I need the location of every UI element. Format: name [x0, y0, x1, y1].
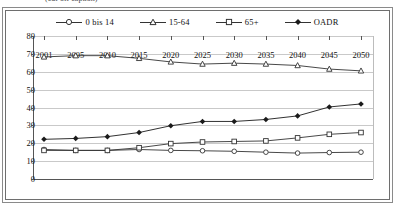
- data-point: [41, 137, 47, 143]
- series-0-bis-14: [42, 147, 364, 155]
- data-point: [359, 150, 364, 155]
- data-point: [295, 136, 300, 141]
- legend-marker-triangle-icon: [140, 17, 166, 27]
- data-point: [358, 101, 364, 107]
- data-point: [42, 148, 47, 153]
- legend-label-0-bis-14: 0 bis 14: [84, 17, 114, 27]
- data-point: [136, 130, 142, 136]
- legend-marker-square-icon: [216, 17, 242, 27]
- caption-text: (cut-off caption): [45, 0, 98, 3]
- data-point: [295, 151, 300, 156]
- data-point: [295, 113, 301, 119]
- y-tick-mark: [31, 179, 34, 180]
- legend-marker-circle-icon: [56, 17, 82, 27]
- legend-label-15-64: 15-64: [168, 17, 190, 27]
- data-point: [327, 132, 332, 137]
- plot-area: 01020304050607080 2001200520102015202020…: [33, 36, 373, 180]
- data-point: [327, 150, 332, 155]
- data-point: [105, 148, 110, 153]
- data-point: [169, 141, 174, 146]
- legend-item-65-plus: 65+: [216, 17, 259, 27]
- legend-item-15-64: 15-64: [140, 17, 190, 27]
- data-point: [263, 117, 269, 123]
- legend-label-65-plus: 65+: [244, 17, 259, 27]
- data-point: [264, 139, 269, 144]
- data-point: [327, 104, 333, 110]
- data-point: [200, 119, 206, 125]
- data-point: [359, 130, 364, 135]
- data-point: [200, 140, 205, 145]
- data-point: [137, 145, 142, 150]
- data-point: [231, 119, 237, 125]
- legend-item-oadr: OADR: [285, 17, 339, 27]
- data-point: [169, 148, 174, 153]
- legend-item-0-bis-14: 0 bis 14: [56, 17, 114, 27]
- data-point: [200, 148, 205, 153]
- data-point: [105, 134, 111, 140]
- chart-figure: (cut-off caption) 0 bis 14 15-64: [0, 0, 397, 207]
- data-point: [264, 150, 269, 155]
- legend-label-oadr: OADR: [313, 17, 339, 27]
- series-15-64: [41, 53, 363, 73]
- data-point: [73, 136, 79, 142]
- data-point: [73, 148, 78, 153]
- data-point: [168, 123, 174, 129]
- legend-marker-diamond-icon: [285, 17, 311, 27]
- data-point: [232, 149, 237, 154]
- series-layer: [34, 36, 373, 179]
- data-point: [232, 139, 237, 144]
- chart-legend: 0 bis 14 15-64 65+: [5, 13, 390, 31]
- caption-strip: (cut-off caption): [0, 0, 397, 6]
